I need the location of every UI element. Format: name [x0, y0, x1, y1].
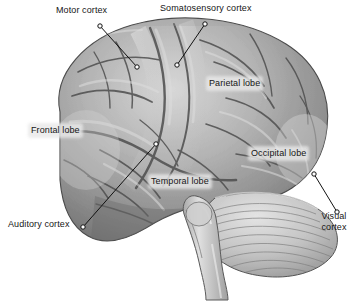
label-occipital-lobe: Occipital lobe: [250, 148, 307, 159]
label-temporal-lobe: Temporal lobe: [150, 176, 210, 187]
label-frontal-lobe: Frontal lobe: [30, 125, 81, 136]
label-somatosensory-cortex: Somatosensory cortex: [160, 3, 252, 14]
label-parietal-lobe: Parietal lobe: [208, 78, 261, 89]
brain-diagram-figure: Motor cortex Somatosensory cortex Pariet…: [0, 0, 359, 304]
label-visual-cortex-line1: Visual: [322, 211, 347, 221]
label-visual-cortex-line2: cortex: [321, 222, 346, 232]
label-motor-cortex: Motor cortex: [56, 5, 107, 16]
label-auditory-cortex: Auditory cortex: [8, 219, 70, 230]
label-visual-cortex: Visual cortex: [312, 211, 356, 233]
